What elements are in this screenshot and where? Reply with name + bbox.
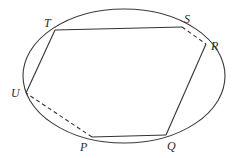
segment-RQ (166, 44, 206, 135)
label-Q: Q (167, 139, 176, 153)
ellipse (23, 9, 225, 143)
diagram-canvas: T S R U P Q (0, 0, 237, 158)
hexagon-in-ellipse-diagram: T S R U P Q (0, 0, 237, 158)
label-P: P (79, 140, 88, 154)
segment-UT (26, 30, 55, 93)
segment-PU (26, 93, 92, 137)
label-U: U (11, 86, 21, 100)
segment-QP (92, 135, 166, 137)
segment-SR (182, 27, 206, 44)
label-R: R (210, 39, 219, 53)
hexagon-sides (26, 27, 206, 137)
label-T: T (44, 16, 52, 30)
label-S: S (184, 12, 190, 26)
segment-TS (55, 27, 182, 30)
